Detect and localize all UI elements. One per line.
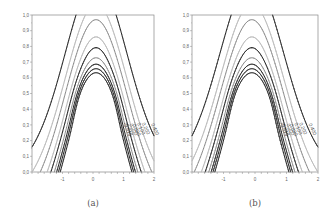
contour-line [57, 64, 136, 172]
contour-line [40, 20, 152, 172]
x-tick-label: 2 [153, 177, 156, 182]
y-tick-label: 0,3 [23, 123, 30, 128]
y-tick-label: 0,2 [23, 138, 30, 143]
contour-line [192, 15, 318, 172]
y-tick-label: 0,7 [183, 60, 190, 65]
x-tick-label: 0 [254, 177, 257, 182]
contour-label: 0.400 [150, 122, 161, 136]
y-tick-label: 0,4 [183, 107, 190, 112]
y-tick-label: 0,3 [183, 123, 190, 128]
x-tick-label: 1 [122, 177, 125, 182]
contour-label: 0.400 [308, 122, 319, 136]
y-tick-label: 0,4 [23, 107, 30, 112]
contour-line [205, 48, 298, 172]
contour-line [211, 64, 292, 172]
panel-caption: (b) [249, 198, 261, 208]
contour-line [201, 37, 302, 172]
y-tick-label: 0,8 [23, 44, 30, 49]
y-tick-label: 0,2 [183, 138, 190, 143]
figure: 0,00,10,20,30,40,50,60,70,80,91,0-10120.… [0, 0, 332, 219]
x-tick-label: 2 [317, 177, 320, 182]
contour-line [58, 69, 133, 172]
y-tick-label: 0,6 [183, 75, 190, 80]
panel-b: 0,00,10,20,30,40,50,60,70,80,91,0-10120.… [183, 13, 320, 208]
y-tick-label: 0,8 [183, 44, 190, 49]
y-tick-label: 0,5 [183, 91, 190, 96]
y-tick-label: 0,0 [23, 170, 30, 175]
contour-line [51, 48, 141, 172]
x-tick-label: -1 [60, 177, 64, 182]
y-tick-label: 0,5 [23, 91, 30, 96]
y-tick-label: 0,1 [23, 154, 30, 159]
contour-line [194, 20, 309, 172]
panel-a: 0,00,10,20,30,40,50,60,70,80,91,0-10120.… [23, 13, 161, 208]
x-tick-label: -1 [221, 177, 225, 182]
y-tick-label: 1,0 [183, 13, 190, 18]
x-tick-label: 1 [285, 177, 288, 182]
y-tick-label: 0,1 [183, 154, 190, 159]
y-tick-label: 0,9 [23, 28, 30, 33]
y-tick-label: 0,0 [183, 170, 190, 175]
y-tick-label: 0,9 [183, 28, 190, 33]
contour-line [213, 69, 291, 172]
y-tick-label: 0,6 [23, 75, 30, 80]
plot-frame [32, 15, 154, 172]
contour-line [47, 37, 145, 172]
panel-caption: (a) [87, 198, 99, 208]
y-tick-label: 1,0 [23, 13, 30, 18]
x-tick-label: 0 [92, 177, 95, 182]
plot-frame [192, 15, 318, 172]
contour-line [32, 15, 154, 172]
y-tick-label: 0,7 [23, 60, 30, 65]
